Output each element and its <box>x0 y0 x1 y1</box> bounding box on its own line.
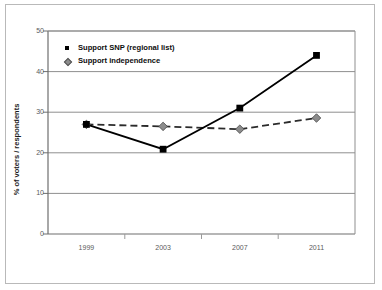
marker-snp-2007 <box>236 105 243 112</box>
y-axis-title: % of voters / respondents <box>12 90 21 210</box>
x-tickmarks-group <box>125 234 278 239</box>
y-tick-label-50: 50 <box>22 27 44 35</box>
marker-snp-2003 <box>160 146 167 153</box>
legend-label-support-independence: Support independence <box>78 56 160 66</box>
y-tick-label-10: 10 <box>22 189 44 197</box>
x-axis-tick-labels: 1999 2003 2007 2011 <box>0 243 382 259</box>
legend-item-support-independence: Support independence <box>62 55 242 66</box>
chart-legend: Support SNP (regional list) Support inde… <box>62 42 242 68</box>
marker-snp-2011 <box>313 52 320 59</box>
filled-square-marker-icon <box>62 42 73 53</box>
y-tick-label-30: 30 <box>22 108 44 116</box>
y-tick-label-40: 40 <box>22 68 44 76</box>
y-tick-label-0: 0 <box>22 230 44 238</box>
legend-label-support-snp: Support SNP (regional list) <box>78 43 174 53</box>
x-tick-label-2003: 2003 <box>138 243 188 252</box>
x-tick-label-2011: 2011 <box>292 243 342 252</box>
marker-snp-1999 <box>83 121 90 128</box>
x-tick-label-1999: 1999 <box>61 243 111 252</box>
legend-item-support-snp: Support SNP (regional list) <box>62 42 242 53</box>
gray-diamond-marker-icon <box>62 55 73 66</box>
y-tick-label-20: 20 <box>22 149 44 157</box>
x-tick-label-2007: 2007 <box>215 243 265 252</box>
